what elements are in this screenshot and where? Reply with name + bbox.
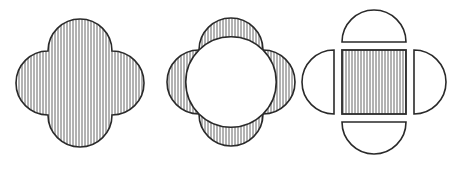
semicircle-top <box>342 10 406 42</box>
quatrefoil-hatch-fill <box>10 10 150 160</box>
diagram-svg <box>0 0 459 170</box>
figure-square-and-semicircles <box>302 10 446 154</box>
semicircle-left <box>302 50 334 114</box>
semicircle-right <box>414 50 446 114</box>
figure-circle-with-lobes <box>167 18 295 146</box>
central-circle <box>186 37 277 128</box>
semicircle-bottom <box>342 122 406 154</box>
figure-quatrefoil <box>10 10 150 160</box>
diagram-canvas <box>0 0 459 170</box>
central-square <box>342 50 406 114</box>
